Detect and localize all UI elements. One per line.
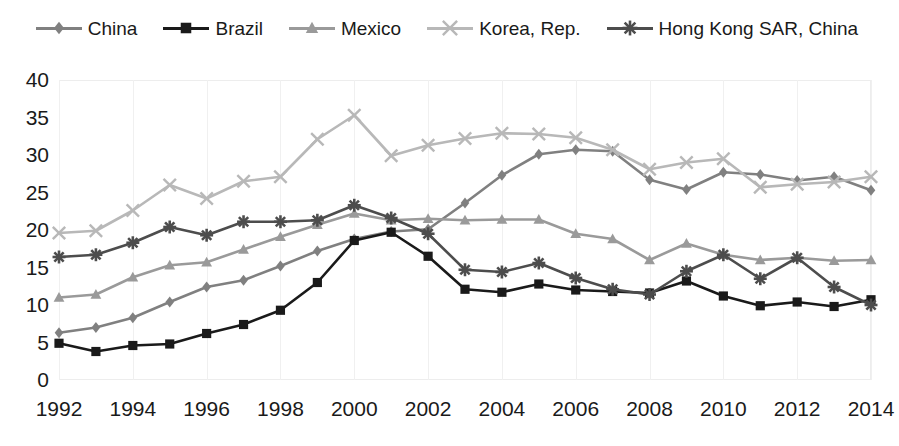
asterisk-marker-icon: [495, 266, 508, 279]
x-axis-tick-label: 2000: [319, 398, 389, 419]
legend-item-mexico[interactable]: Mexico: [289, 19, 401, 38]
legend-item-hong-kong-sar-china[interactable]: Hong Kong SAR, China: [607, 19, 859, 38]
square-marker-icon: [54, 339, 63, 348]
x-axis-tick-label: 2008: [615, 398, 685, 419]
y-axis-tick-label: 30: [5, 144, 49, 165]
asterisk-marker-icon: [680, 265, 693, 278]
diamond-marker-icon: [867, 185, 876, 196]
asterisk-marker-icon: [532, 257, 545, 270]
asterisk-marker-icon: [348, 199, 361, 212]
y-axis-tick-label: 0: [5, 369, 49, 390]
x-axis-tick-label: 2006: [541, 398, 611, 419]
legend-marker: [620, 18, 640, 38]
asterisk-marker-icon: [622, 21, 637, 36]
square-marker-icon: [460, 285, 469, 294]
asterisk-marker-icon: [126, 236, 139, 249]
x-axis-tick-label: 2014: [836, 398, 899, 419]
diamond-marker-icon: [202, 282, 211, 293]
asterisk-marker-icon: [89, 248, 102, 261]
asterisk-marker-icon: [237, 215, 250, 228]
asterisk-marker-icon: [828, 281, 841, 294]
diamond-marker-icon: [165, 297, 174, 308]
y-axis-tick-label: 10: [5, 294, 49, 315]
legend-item-label: Mexico: [341, 19, 401, 38]
square-marker-icon: [424, 252, 433, 261]
legend-marker: [49, 18, 69, 38]
square-marker-icon: [793, 297, 802, 306]
square-marker-icon: [571, 285, 580, 294]
square-marker-icon: [181, 23, 192, 34]
square-marker-icon: [165, 339, 174, 348]
y-axis-tick-label: 5: [5, 332, 49, 353]
x-axis-tick-label: 2002: [393, 398, 463, 419]
legend-marker: [440, 18, 460, 38]
asterisk-marker-icon: [569, 272, 582, 285]
series-brazil: [54, 228, 875, 356]
square-marker-icon: [756, 301, 765, 310]
y-axis-tick-label: 25: [5, 182, 49, 203]
cross-marker-icon: [427, 20, 473, 36]
legend-item-china[interactable]: China: [36, 19, 138, 38]
series-layer: [59, 80, 871, 380]
diamond-marker-icon: [313, 246, 322, 257]
chart-legend: ChinaBrazilMexicoKorea, Rep.Hong Kong SA…: [0, 0, 894, 56]
asterisk-marker-icon: [607, 20, 653, 36]
asterisk-marker-icon: [865, 299, 878, 312]
plot-area: [59, 80, 871, 380]
legend-marker: [176, 18, 196, 38]
legend-item-label: Hong Kong SAR, China: [659, 19, 859, 38]
series-china: [55, 144, 876, 338]
diamond-marker-icon: [92, 322, 101, 333]
cross-marker-icon: [443, 21, 457, 35]
square-marker-icon: [534, 279, 543, 288]
x-axis-tick-label: 2004: [467, 398, 537, 419]
diamond-marker-icon: [571, 144, 580, 155]
square-marker-icon: [497, 288, 506, 297]
asterisk-marker-icon: [791, 251, 804, 264]
legend-item-label: Brazil: [215, 19, 263, 38]
x-axis-tick-label: 1994: [98, 398, 168, 419]
diamond-marker-icon: [276, 261, 285, 272]
legend-marker: [302, 18, 322, 38]
asterisk-marker-icon: [311, 214, 324, 227]
triangle-marker-icon: [289, 20, 335, 36]
square-marker-icon: [91, 347, 100, 356]
asterisk-marker-icon: [606, 283, 619, 296]
asterisk-marker-icon: [643, 288, 656, 301]
asterisk-marker-icon: [459, 263, 472, 276]
diamond-marker-icon: [682, 184, 691, 195]
diamond-marker-icon: [129, 312, 138, 323]
asterisk-marker-icon: [200, 229, 213, 242]
x-axis-tick-label: 1998: [245, 398, 315, 419]
triangle-marker-icon: [306, 22, 318, 33]
asterisk-marker-icon: [754, 272, 767, 285]
diamond-marker-icon: [55, 327, 64, 338]
x-axis-tick-label: 1992: [24, 398, 94, 419]
square-marker-icon: [128, 341, 137, 350]
diamond-marker-icon: [719, 167, 728, 178]
asterisk-marker-icon: [385, 212, 398, 225]
square-marker-icon: [313, 278, 322, 287]
square-marker-icon: [350, 236, 359, 245]
cross-marker-icon: [200, 192, 212, 204]
square-marker-icon: [719, 291, 728, 300]
cross-marker-icon: [348, 109, 360, 121]
x-axis-tick-label: 1996: [172, 398, 242, 419]
asterisk-marker-icon: [422, 227, 435, 240]
triangle-marker-icon: [681, 238, 692, 248]
x-axis-tick-label: 2010: [688, 398, 758, 419]
square-marker-icon: [239, 320, 248, 329]
asterisk-marker-icon: [53, 251, 66, 264]
legend-item-brazil[interactable]: Brazil: [163, 19, 263, 38]
diamond-marker-icon: [535, 149, 544, 160]
cross-marker-icon: [311, 133, 323, 145]
square-marker-icon: [682, 276, 691, 285]
gridline-2014: [871, 80, 872, 380]
legend-item-label: Korea, Rep.: [479, 19, 580, 38]
asterisk-marker-icon: [274, 215, 287, 228]
x-axis-tick-label: 2012: [762, 398, 832, 419]
y-axis-tick-label: 35: [5, 107, 49, 128]
square-marker-icon: [830, 302, 839, 311]
legend-item-korea-rep[interactable]: Korea, Rep.: [427, 19, 580, 38]
